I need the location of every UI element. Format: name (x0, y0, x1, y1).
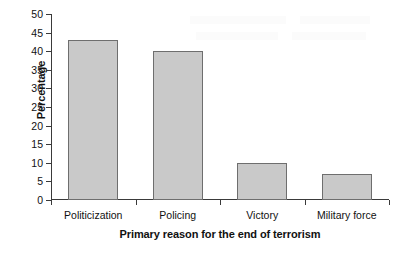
y-axis-tick (46, 14, 51, 15)
y-axis-tick (46, 70, 51, 71)
x-axis-category-label: Victory (246, 210, 278, 221)
y-axis-tick-label: 35 (31, 65, 43, 76)
y-axis-tick (46, 88, 51, 89)
y-axis-tick-label: 10 (31, 158, 43, 169)
y-axis-tick-label: 5 (37, 176, 43, 187)
x-axis-category-label: Policing (159, 210, 196, 221)
bar (237, 163, 287, 200)
x-axis-title: Primary reason for the end of terrorism (51, 228, 389, 240)
y-axis-tick-label: 40 (31, 46, 43, 57)
y-axis-tick-label: 45 (31, 27, 43, 38)
y-axis-tick (46, 107, 51, 108)
y-axis-tick-label: 0 (37, 195, 43, 206)
x-axis-category-label: Military force (317, 210, 377, 221)
y-axis-tick (46, 126, 51, 127)
bar (322, 174, 372, 200)
y-axis-tick (46, 181, 51, 182)
y-axis-tick-label: 50 (31, 9, 43, 20)
x-axis-category-label: Politicization (64, 210, 122, 221)
y-axis-tick (46, 163, 51, 164)
y-axis-tick-label: 20 (31, 120, 43, 131)
y-axis-line (51, 14, 52, 200)
y-axis-tick-label: 15 (31, 139, 43, 150)
bar (153, 51, 203, 200)
x-axis-tick (51, 200, 52, 205)
y-axis-tick (46, 51, 51, 52)
x-axis-tick (220, 200, 221, 205)
bar (68, 40, 118, 200)
x-axis-tick (389, 200, 390, 205)
y-axis-tick-label: 25 (31, 102, 43, 113)
x-axis-tick (136, 200, 137, 205)
y-axis-tick-label: 30 (31, 83, 43, 94)
y-axis-tick (46, 144, 51, 145)
bar-chart-figure: Percentage 05101520253035404550 Politici… (0, 0, 410, 256)
x-axis-tick (305, 200, 306, 205)
plot-area: 05101520253035404550 PoliticizationPolic… (51, 14, 389, 200)
y-axis-tick (46, 33, 51, 34)
